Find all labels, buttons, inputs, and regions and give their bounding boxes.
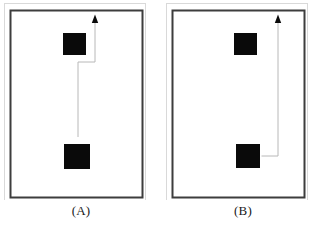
panel-a: (A) (0, 0, 162, 230)
path-arrowhead-a (92, 15, 98, 24)
lower-obstacle-b (236, 144, 260, 168)
panel-b-label: (B) (162, 203, 324, 219)
figure-container: (A) (B) (0, 0, 324, 230)
upper-obstacle-b (234, 33, 257, 55)
panel-a-label: (A) (0, 203, 162, 219)
panel-b-canvas (162, 0, 324, 200)
lower-obstacle-a (64, 144, 90, 169)
upper-obstacle-a (63, 33, 86, 55)
panel-a-canvas (0, 0, 162, 200)
panel-b: (B) (162, 0, 324, 230)
right-detour-path-b (260, 20, 278, 156)
path-arrowhead-b (275, 15, 281, 24)
